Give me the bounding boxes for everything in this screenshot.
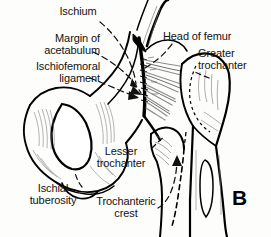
femoral-shaft (190, 126, 227, 237)
panel-letter-b: B (232, 186, 247, 210)
label-ischium: Ischium (42, 6, 114, 18)
ischium-shading-hatch-right (90, 102, 116, 185)
ischiofemoral-ligament-fibers (145, 60, 181, 120)
label-greater-trochanter: Greater trochanter (198, 48, 270, 71)
head-of-femur (137, 0, 187, 51)
anatomy-figure-panel-b: Ischium Margin of acetabulum Ischiofemor… (0, 0, 271, 237)
label-ischial-tuberosity: Ischial tuberosity (20, 183, 86, 206)
label-lesser-trochanter: Lesser trochanter (86, 146, 156, 169)
label-head-of-femur: Head of femur (163, 31, 263, 43)
label-ischiofemoral-ligament: Ischiofemoral ligament (0, 61, 100, 84)
leader-line-greater-trochanter (195, 72, 209, 78)
trochanteric-crest (172, 132, 186, 226)
label-trochanteric-crest: Trochanteric crest (84, 196, 168, 219)
acetabular-margin (90, 32, 160, 143)
label-margin-of-acetabulum: Margin of acetabulum (8, 33, 100, 56)
